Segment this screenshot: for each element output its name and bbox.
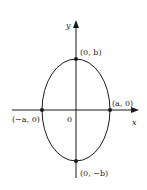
y-axis-label: y (65, 21, 71, 30)
y-axis-arrow-icon (73, 20, 79, 28)
point-top (74, 57, 78, 61)
point-left (40, 108, 44, 112)
point-right (108, 108, 112, 112)
label-top: (0, b) (80, 48, 102, 57)
point-bottom (74, 159, 78, 163)
label-right: (a, 0) (112, 99, 133, 108)
origin-label: 0 (67, 115, 72, 124)
x-axis-label: x (132, 118, 137, 127)
label-bottom: (0, −b) (80, 169, 108, 178)
ellipse-diagram: y x 0 (0, b) (0, −b) (−a, 0) (a, 0) (0, 0, 147, 190)
label-left: (−a, 0) (12, 115, 40, 124)
